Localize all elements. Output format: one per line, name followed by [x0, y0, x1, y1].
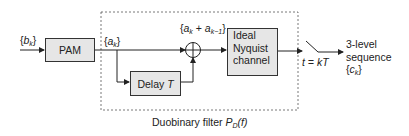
summer-icon — [186, 43, 201, 58]
plus-sign: + — [193, 22, 205, 34]
delay-var: T — [167, 78, 173, 90]
delay-output-line — [180, 58, 193, 82]
sampler-label: t = kT — [302, 56, 329, 68]
channel-label-line1: Ideal — [233, 29, 256, 42]
pam-label: PAM — [59, 44, 81, 56]
input-label: {bk} — [20, 34, 36, 50]
delay-block: Delay T — [130, 71, 181, 96]
sampler-switch-icon — [306, 41, 318, 52]
caption-func: P — [226, 116, 233, 128]
caption-arg: (f) — [238, 116, 248, 128]
filter-caption: Duobinary filter PD(f) — [152, 116, 248, 132]
pam-block: PAM — [45, 38, 95, 62]
brace: } — [222, 22, 226, 34]
brace: } — [358, 63, 362, 75]
delay-label: Delay — [137, 78, 167, 90]
sum-signal-label: {ak + ak−1} — [180, 22, 226, 38]
brace: } — [117, 35, 121, 47]
output-label: 3-level sequence {ck} — [346, 38, 392, 80]
output-symbol: {ck} — [346, 63, 392, 80]
output-line1: 3-level — [346, 38, 392, 51]
a-signal-label: {ak} — [104, 35, 120, 51]
subscript: k−1 — [211, 28, 222, 35]
nyquist-channel-block: Ideal Nyquist channel — [227, 28, 278, 76]
output-line2: sequence — [346, 51, 392, 64]
caption-text: Duobinary filter — [152, 116, 226, 128]
delay-branch-line — [117, 50, 129, 82]
brace: } — [33, 34, 37, 46]
channel-label-line2: Nyquist — [233, 42, 268, 55]
channel-label-line3: channel — [233, 54, 270, 67]
sampler-time: t = kT — [302, 56, 329, 68]
